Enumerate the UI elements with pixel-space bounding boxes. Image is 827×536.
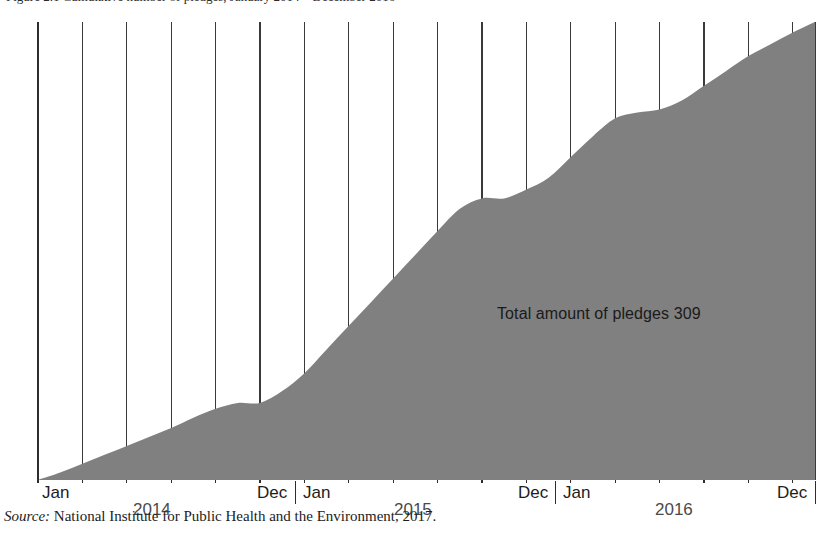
figure-title-text: Figure 2.1 Cumulative number of pledges,… — [6, 0, 395, 4]
total-pledges-annotation: Total amount of pledges 309 — [497, 305, 701, 323]
year-separator — [815, 481, 816, 504]
source-note: Source: National Institute for Public He… — [4, 508, 436, 525]
month-tick-label: Jan — [42, 483, 69, 503]
source-label: Source: — [4, 508, 50, 524]
area-series-fill — [38, 22, 815, 480]
month-tick-label: Jan — [563, 483, 590, 503]
year-label: 2016 — [655, 500, 693, 520]
figure-title-clipped: Figure 2.1 Cumulative number of pledges,… — [0, 0, 827, 4]
year-separator — [555, 481, 556, 504]
year-separator — [295, 481, 296, 504]
month-tick-label: Dec — [777, 483, 807, 503]
month-tick-label: Dec — [257, 483, 287, 503]
figure-root: Figure 2.1 Cumulative number of pledges,… — [0, 0, 827, 536]
month-tick-label: Dec — [518, 483, 548, 503]
chart-plot-area — [0, 8, 827, 483]
source-body: National Institute for Public Health and… — [54, 508, 436, 524]
month-tick-label: Jan — [303, 483, 330, 503]
area-chart-svg — [0, 8, 827, 483]
